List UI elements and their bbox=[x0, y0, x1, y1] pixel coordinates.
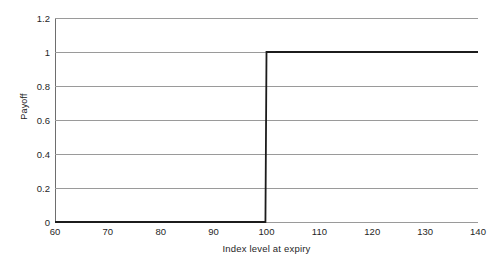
y-axis-title-text: Payoff bbox=[19, 93, 29, 120]
x-tick-label: 120 bbox=[364, 226, 380, 237]
x-tick-label: 110 bbox=[312, 226, 327, 237]
y-tick-label: 0.2 bbox=[37, 183, 50, 194]
x-axis-title: Index level at expiry bbox=[55, 243, 478, 254]
y-tick-label: 0.4 bbox=[37, 149, 50, 160]
y-tick-label: 1 bbox=[45, 47, 50, 58]
x-tick-label: 100 bbox=[259, 226, 275, 237]
payoff-chart-figure: Payoff 00.20.40.60.811.2 607080901001101… bbox=[0, 0, 490, 267]
x-tick-label: 140 bbox=[470, 226, 486, 237]
y-tick-label: 0.6 bbox=[37, 115, 50, 126]
x-tick-label: 80 bbox=[155, 226, 166, 237]
y-tick-label: 0.8 bbox=[37, 81, 50, 92]
payoff-step-line bbox=[55, 52, 478, 222]
plot-area: 00.20.40.60.811.2 6070809010011012013014… bbox=[55, 18, 478, 222]
y-tick-label: 1.2 bbox=[37, 13, 50, 24]
x-tick-label: 90 bbox=[208, 226, 219, 237]
payoff-curve bbox=[55, 18, 478, 222]
x-tick-label: 60 bbox=[50, 226, 61, 237]
x-tick-label: 130 bbox=[417, 226, 433, 237]
y-axis-title: Payoff bbox=[16, 0, 32, 267]
x-tick-label: 70 bbox=[103, 226, 114, 237]
